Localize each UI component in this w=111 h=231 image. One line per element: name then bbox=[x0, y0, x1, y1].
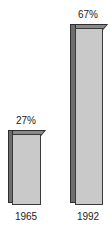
value-label-1965: 27% bbox=[6, 115, 46, 126]
bar-1992-front-face bbox=[75, 28, 103, 205]
category-label-1992: 1992 bbox=[68, 211, 108, 222]
category-label-1965: 1965 bbox=[6, 211, 46, 222]
bar-1965-front-face bbox=[12, 134, 41, 205]
value-label-1992: 67% bbox=[68, 9, 108, 20]
bar-chart: 27% 1965 67% 1992 bbox=[0, 0, 111, 231]
